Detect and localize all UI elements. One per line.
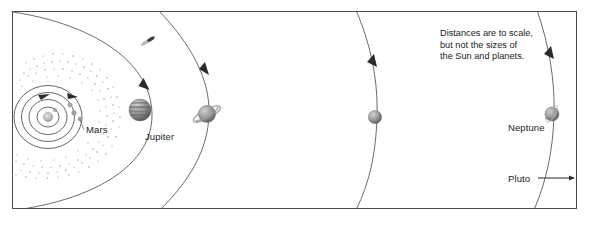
solar-system-figure-page: Mars Jupiter Neptune Pluto Distances are… bbox=[0, 0, 595, 230]
label-neptune: Neptune bbox=[508, 122, 545, 133]
label-pluto: Pluto bbox=[508, 173, 530, 184]
uranus bbox=[368, 110, 381, 123]
earth bbox=[72, 111, 77, 116]
sun bbox=[43, 112, 52, 121]
scale-note-line-2: but not the sizes of bbox=[440, 40, 570, 52]
scale-note-line-1: Distances are to scale, bbox=[440, 28, 570, 40]
venus bbox=[68, 103, 73, 108]
scale-note: Distances are to scale, but not the size… bbox=[440, 28, 570, 63]
label-mars: Mars bbox=[86, 124, 108, 135]
label-jupiter: Jupiter bbox=[145, 131, 174, 142]
scale-note-line-3: the Sun and planets. bbox=[440, 51, 570, 63]
mercury bbox=[53, 108, 57, 112]
